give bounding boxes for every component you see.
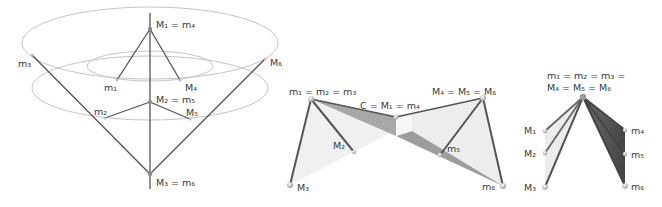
joint-m5	[438, 153, 442, 157]
label-M5: M₅	[186, 107, 198, 118]
label-mid: M₂ = m₅	[156, 94, 195, 105]
label-M6: M₆	[270, 57, 282, 68]
label-fan-m5: m₅	[631, 149, 644, 160]
joint-center	[394, 115, 399, 120]
joint-m6	[500, 183, 506, 189]
edge-m3-bottom	[32, 55, 150, 174]
joint-fan-m4	[623, 128, 627, 132]
joint-fan-M1	[543, 129, 547, 133]
edge-top-M4	[150, 29, 180, 80]
label-right-apex: M₄ = M₅ = M₆	[432, 86, 496, 97]
joint-M2	[352, 150, 356, 154]
edge-mid-m2	[105, 102, 150, 118]
fan-figure: m₁ = m₂ = m₃ = M₄ = M₅ = M₆ M₁ M₂ M₃ m₄ …	[524, 70, 644, 193]
label-fan-m4: m₄	[631, 125, 644, 136]
joint-M3	[287, 182, 293, 188]
label-M3: M₃	[297, 182, 309, 193]
label-m6: m₆	[482, 181, 495, 192]
label-m5: m₅	[447, 143, 460, 154]
label-m3: m₃	[18, 58, 31, 69]
label-fan-apex-line2: M₄ = M₅ = M₆	[547, 82, 611, 93]
label-center: C = M₁ = m₄	[360, 100, 420, 111]
joint-M6	[264, 58, 267, 61]
label-top: M₁ = m₄	[156, 19, 195, 30]
label-left-apex: m₁ = m₂ = m₃	[289, 86, 356, 97]
label-fan-m6: m₆	[631, 181, 644, 192]
label-m1: m₁	[104, 82, 117, 93]
joint-fan-M3	[542, 184, 548, 190]
label-fan-M3: M₃	[524, 182, 536, 193]
joint-bottom	[148, 172, 152, 176]
edge-top-m1	[117, 29, 150, 80]
label-m2: m₂	[94, 106, 107, 117]
joint-fan-m6	[622, 183, 628, 189]
label-fan-apex-line1: m₁ = m₂ = m₃ =	[547, 70, 625, 81]
joint-mid	[148, 100, 152, 104]
joint-fan-M2	[543, 151, 547, 155]
joint-top	[148, 27, 152, 31]
diagram-canvas: M₁ = m₄ m₁ M₄ m₃ M₆ M₂ = m₅ m₂ M₅ M₃ = m…	[0, 0, 662, 207]
label-M2: M₂	[333, 140, 345, 151]
bowtie-figure: m₁ = m₂ = m₃ M₄ = M₅ = M₆ C = M₁ = m₄ M₂…	[287, 86, 506, 193]
joint-m3	[31, 54, 34, 57]
label-bottom: M₃ = m₆	[156, 177, 195, 188]
label-fan-M1: M₁	[524, 125, 536, 136]
label-M4: M₄	[185, 82, 197, 93]
joint-fan-m5	[623, 152, 627, 156]
joint-M4	[179, 79, 182, 82]
joint-fan-apex	[580, 94, 586, 100]
cone-figure: M₁ = m₄ m₁ M₄ m₃ M₆ M₂ = m₅ m₂ M₅ M₃ = m…	[18, 7, 282, 189]
edge-M6-bottom	[150, 59, 265, 174]
label-fan-M2: M₂	[524, 148, 536, 159]
